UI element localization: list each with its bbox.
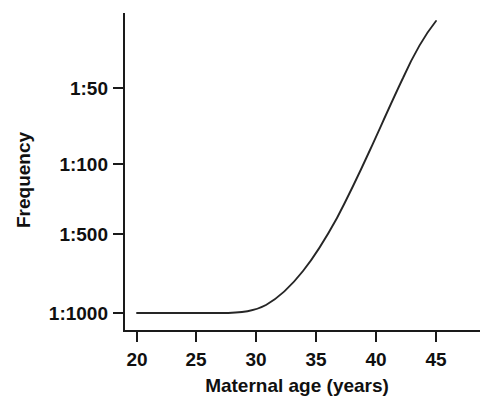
x-tick-label-45: 45: [425, 349, 447, 370]
x-axis-title: Maternal age (years): [205, 375, 389, 396]
x-tick-label-40: 40: [365, 349, 386, 370]
chart-plot-area: 1:50 1:100 1:500 1:1000 20 25 30 35 40 4…: [0, 0, 483, 401]
y-tick-label-1-50: 1:50: [70, 78, 108, 99]
y-tick-label-1-500: 1:500: [59, 224, 108, 245]
y-tick-label-1-1000: 1:1000: [49, 303, 108, 324]
chart-figure: 1:50 1:100 1:500 1:1000 20 25 30 35 40 4…: [0, 0, 483, 401]
x-tick-label-25: 25: [185, 349, 207, 370]
x-tick-label-35: 35: [305, 349, 327, 370]
x-tick-label-20: 20: [126, 349, 147, 370]
frequency-curve: [137, 21, 436, 313]
y-axis-title: Frequency: [13, 132, 34, 229]
y-tick-label-1-100: 1:100: [59, 154, 108, 175]
x-tick-label-30: 30: [245, 349, 266, 370]
